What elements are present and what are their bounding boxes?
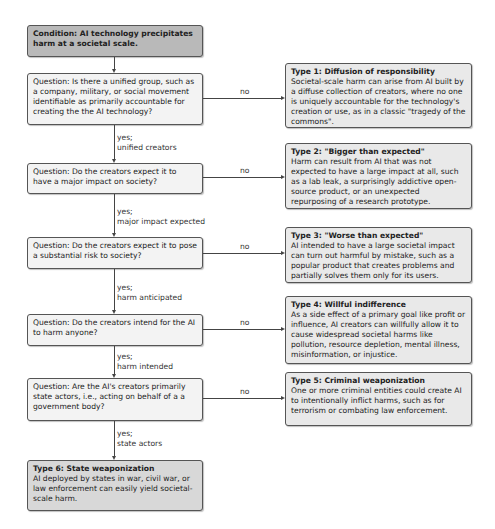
question-text: Question: Do the creators expect it to h… xyxy=(33,167,177,186)
connector xyxy=(114,57,115,69)
yes-detail: harm intended xyxy=(117,362,173,371)
condition-text: Condition: AI technology precipitates ha… xyxy=(33,29,193,48)
no-label: no xyxy=(240,318,249,328)
yes-connector xyxy=(114,421,115,456)
no-label: no xyxy=(240,87,249,97)
question-5-box: Question: Are the AI's creators primaril… xyxy=(27,378,203,421)
question-4-box: Question: Do the creators intend for the… xyxy=(27,314,203,346)
yes-detail: major impact expected xyxy=(117,217,205,226)
type-body: Societal-scale harm can arise from AI bu… xyxy=(291,77,466,127)
type-2-box: Type 2: "Bigger than expected" Harm can … xyxy=(285,143,472,209)
question-text: Question: Do the creators intend for the… xyxy=(33,318,195,337)
type-body: AI intended to have a large societal imp… xyxy=(291,241,466,281)
question-text: Question: Are the AI's creators primaril… xyxy=(33,382,185,411)
type-body: AI deployed by states in war, civil war,… xyxy=(33,474,197,504)
question-text: Question: Do the creators expect it to p… xyxy=(33,241,197,260)
no-connector xyxy=(203,177,283,178)
question-3-box: Question: Do the creators expect it to p… xyxy=(27,237,203,269)
yes-label: yes;major impact expected xyxy=(117,207,205,227)
type-title: Type 3: "Worse than expected" xyxy=(291,231,466,241)
type-body: One or more criminal entities could crea… xyxy=(291,386,466,416)
yes-connector xyxy=(114,346,115,374)
no-connector xyxy=(203,329,283,330)
yes-connector xyxy=(114,194,115,233)
type-4-box: Type 4: Willful indifference As a side e… xyxy=(285,296,472,364)
yes-text: yes; xyxy=(117,133,133,142)
type-title: Type 1: Diffusion of responsibility xyxy=(291,67,466,77)
question-text: Question: Is there a unified group, such… xyxy=(33,77,194,116)
type-title: Type 4: Willful indifference xyxy=(291,300,466,310)
type-3-box: Type 3: "Worse than expected" AI intende… xyxy=(285,227,472,283)
yes-connector xyxy=(114,269,115,310)
no-label: no xyxy=(240,166,249,176)
yes-label: yes;unified creators xyxy=(117,133,177,153)
type-6-box: Type 6: State weaponization AI deployed … xyxy=(27,460,203,511)
type-title: Type 6: State weaponization xyxy=(33,464,197,474)
yes-text: yes; xyxy=(117,352,133,361)
type-5-box: Type 5: Criminal weaponization One or mo… xyxy=(285,372,472,426)
yes-text: yes; xyxy=(117,207,133,216)
no-connector xyxy=(203,398,283,399)
no-connector xyxy=(203,253,283,254)
yes-detail: unified creators xyxy=(117,143,177,152)
type-title: Type 5: Criminal weaponization xyxy=(291,376,466,386)
yes-label: yes;harm anticipated xyxy=(117,283,182,303)
yes-detail: harm anticipated xyxy=(117,293,182,302)
yes-label: yes;state actors xyxy=(117,429,162,449)
yes-text: yes; xyxy=(117,429,133,438)
type-body: As a side effect of a primary goal like … xyxy=(291,310,466,360)
yes-connector xyxy=(114,125,115,159)
yes-detail: state actors xyxy=(117,439,162,448)
question-1-box: Question: Is there a unified group, such… xyxy=(27,73,203,125)
no-label: no xyxy=(240,242,249,252)
type-1-box: Type 1: Diffusion of responsibility Soci… xyxy=(285,63,472,128)
question-2-box: Question: Do the creators expect it to h… xyxy=(27,163,203,194)
no-connector xyxy=(203,98,283,99)
no-label: no xyxy=(240,387,249,397)
type-body: Harm can result from AI that was not exp… xyxy=(291,157,466,207)
condition-box: Condition: AI technology precipitates ha… xyxy=(27,25,203,57)
yes-text: yes; xyxy=(117,283,133,292)
type-title: Type 2: "Bigger than expected" xyxy=(291,147,466,157)
yes-label: yes;harm intended xyxy=(117,352,173,372)
